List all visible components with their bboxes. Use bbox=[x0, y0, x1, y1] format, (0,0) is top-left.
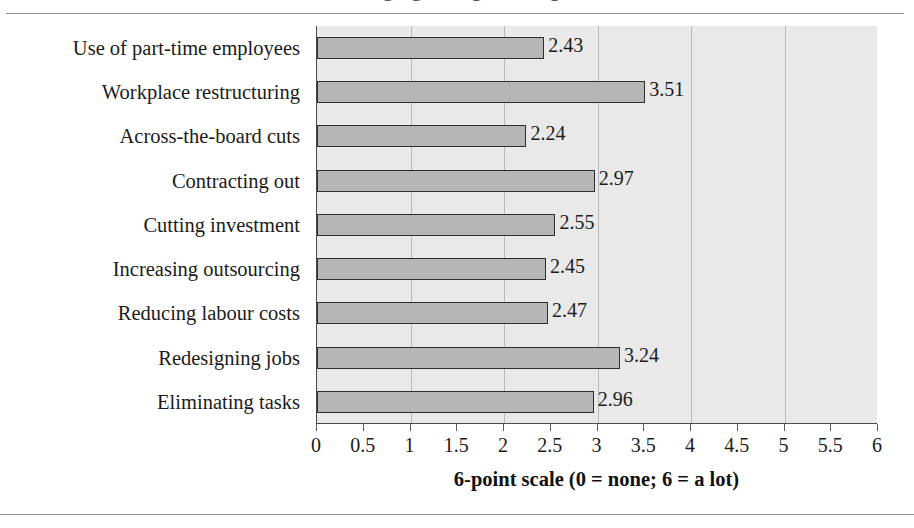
bars-layer: 2.433.512.242.972.552.452.473.242.96 bbox=[317, 26, 877, 423]
bar-value-label: 3.24 bbox=[620, 344, 659, 366]
x-axis-tick bbox=[410, 424, 411, 431]
x-axis-tick bbox=[737, 424, 738, 431]
bar-row: 2.97 bbox=[317, 159, 877, 203]
figure-bottom-rule bbox=[0, 514, 914, 515]
category-label: Cutting investment bbox=[0, 203, 308, 247]
bar[interactable] bbox=[317, 302, 548, 324]
bar-value-label: 2.24 bbox=[526, 122, 565, 144]
bar-row: 2.47 bbox=[317, 291, 877, 335]
category-label: Eliminating tasks bbox=[0, 380, 308, 424]
bar-chart: Use of part-time employeesWorkplace rest… bbox=[0, 0, 914, 514]
x-axis-tick bbox=[830, 424, 831, 431]
bar[interactable] bbox=[317, 347, 620, 369]
x-axis-tick-label: 6 bbox=[847, 432, 907, 458]
bar-value-label: 2.45 bbox=[546, 255, 585, 277]
bar[interactable] bbox=[317, 214, 555, 236]
plot-area: 2.433.512.242.972.552.452.473.242.96 bbox=[316, 26, 877, 424]
category-label: Reducing labour costs bbox=[0, 291, 308, 335]
x-axis-tick bbox=[503, 424, 504, 431]
bar-value-label: 3.51 bbox=[645, 78, 684, 100]
category-axis-labels: Use of part-time employeesWorkplace rest… bbox=[0, 26, 308, 424]
x-axis-tick bbox=[877, 424, 878, 431]
x-axis-tick bbox=[550, 424, 551, 431]
category-label: Across-the-board cuts bbox=[0, 114, 308, 158]
x-axis-tick bbox=[784, 424, 785, 431]
x-axis-tick bbox=[363, 424, 364, 431]
x-axis-tick bbox=[690, 424, 691, 431]
category-label: Use of part-time employees bbox=[0, 26, 308, 70]
bar[interactable] bbox=[317, 37, 544, 59]
x-axis-tick bbox=[597, 424, 598, 431]
category-label: Workplace restructuring bbox=[0, 70, 308, 114]
bar[interactable] bbox=[317, 81, 645, 103]
bar-row: 2.43 bbox=[317, 26, 877, 70]
bar-row: 3.51 bbox=[317, 70, 877, 114]
bar-row: 2.55 bbox=[317, 203, 877, 247]
x-axis-title: 6-point scale (0 = none; 6 = a lot) bbox=[316, 468, 877, 491]
bar-value-label: 2.97 bbox=[595, 167, 634, 189]
category-label: Redesigning jobs bbox=[0, 336, 308, 380]
bar-value-label: 2.43 bbox=[544, 34, 583, 56]
bar-value-label: 2.55 bbox=[555, 211, 594, 233]
x-axis-tick bbox=[643, 424, 644, 431]
x-axis-tick bbox=[316, 424, 317, 431]
bar-row: 2.24 bbox=[317, 114, 877, 158]
x-axis-tick bbox=[456, 424, 457, 431]
bar[interactable] bbox=[317, 170, 595, 192]
category-label: Increasing outsourcing bbox=[0, 247, 308, 291]
bar-row: 3.24 bbox=[317, 336, 877, 380]
bar[interactable] bbox=[317, 258, 546, 280]
bar[interactable] bbox=[317, 391, 594, 413]
bar-row: 2.45 bbox=[317, 247, 877, 291]
category-label: Contracting out bbox=[0, 159, 308, 203]
bar[interactable] bbox=[317, 125, 526, 147]
bar-value-label: 2.96 bbox=[594, 388, 633, 410]
bar-value-label: 2.47 bbox=[548, 299, 587, 321]
bar-row: 2.96 bbox=[317, 380, 877, 424]
